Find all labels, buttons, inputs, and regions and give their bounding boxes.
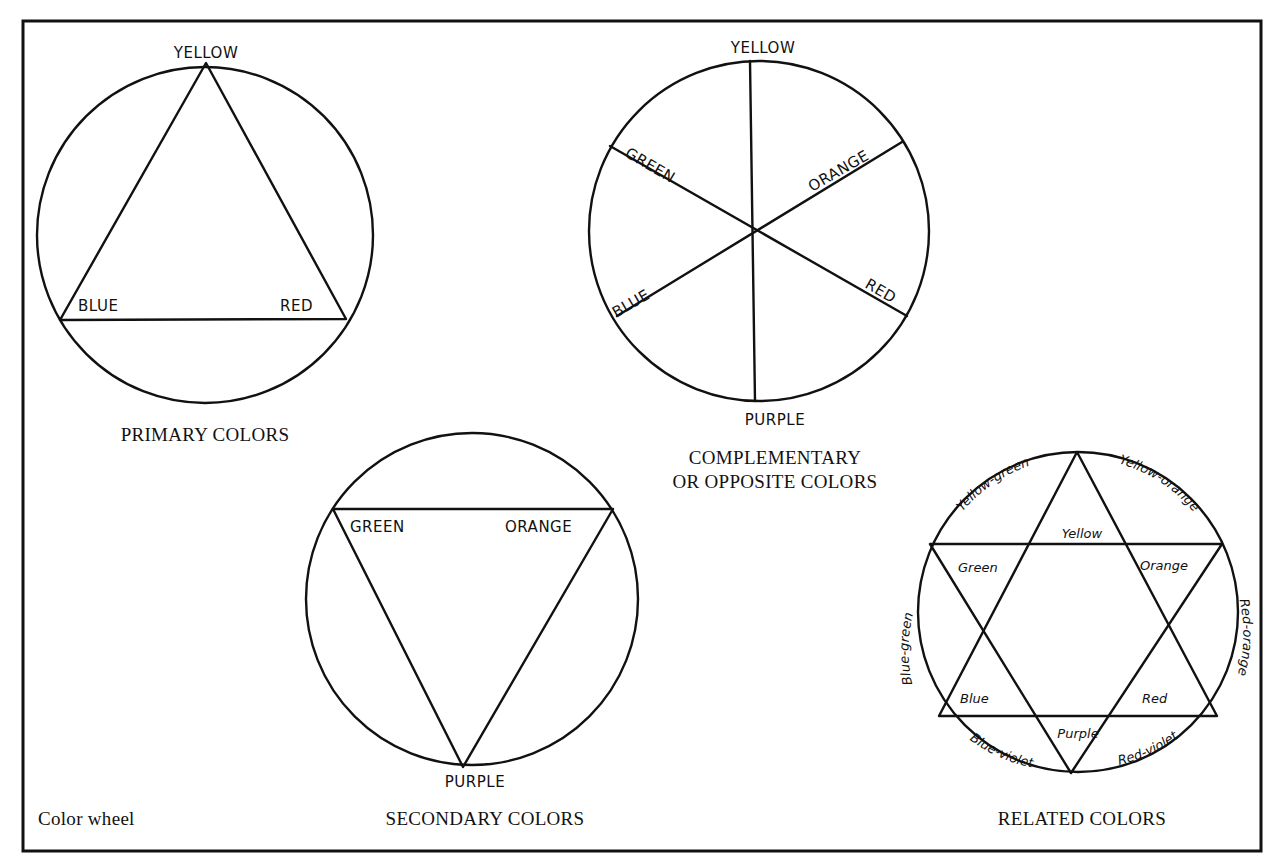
label-green: GREEN bbox=[622, 144, 678, 187]
caption-primary: PRIMARY COLORS bbox=[121, 424, 290, 445]
secondary-colors-wheel: GREEN ORANGE PURPLE SECONDARY COLORS bbox=[306, 433, 638, 829]
label-yellow: YELLOW bbox=[730, 39, 795, 57]
primary-colors-wheel: YELLOW BLUE RED PRIMARY COLORS bbox=[37, 44, 373, 445]
complementary-colors-wheel: YELLOW GREEN ORANGE BLUE RED PURPLE COMP… bbox=[589, 39, 929, 492]
caption-complementary-2: OR OPPOSITE COLORS bbox=[673, 471, 878, 492]
label-purple: Purple bbox=[1057, 726, 1098, 741]
label-green: GREEN bbox=[350, 518, 405, 536]
label-blue: Blue bbox=[960, 691, 989, 706]
color-wheel-figure: YELLOW BLUE RED PRIMARY COLORS YELLOW GR… bbox=[0, 0, 1268, 864]
label-red: RED bbox=[280, 297, 313, 315]
label-yellow-orange: Yellow-orange bbox=[1118, 452, 1203, 514]
secondary-circle bbox=[306, 433, 638, 765]
label-blue: BLUE bbox=[78, 297, 118, 315]
related-colors-wheel: Yellow Green Orange Blue Red Purple Yell… bbox=[896, 452, 1255, 829]
label-yellow-green: Yellow-green bbox=[953, 454, 1031, 513]
label-red: Red bbox=[1142, 691, 1168, 706]
label-orange: Orange bbox=[1140, 558, 1188, 573]
label-red-violet: Red-violet bbox=[1116, 727, 1181, 767]
label-blue-violet: Blue-violet bbox=[967, 730, 1035, 771]
label-orange: ORANGE bbox=[805, 146, 872, 195]
caption-secondary: SECONDARY COLORS bbox=[386, 808, 585, 829]
primary-circle bbox=[37, 67, 373, 403]
label-purple: PURPLE bbox=[745, 411, 805, 429]
caption-related: RELATED COLORS bbox=[998, 808, 1166, 829]
label-blue-green: Blue-green bbox=[896, 611, 916, 687]
label-yellow: YELLOW bbox=[173, 44, 238, 62]
label-purple: PURPLE bbox=[445, 773, 505, 791]
secondary-triangle bbox=[333, 509, 613, 767]
label-blue: BLUE bbox=[609, 286, 653, 322]
label-orange: ORANGE bbox=[505, 518, 572, 536]
label-green: Green bbox=[958, 560, 998, 575]
caption-complementary-1: COMPLEMENTARY bbox=[689, 447, 861, 468]
label-yellow: Yellow bbox=[1062, 526, 1103, 541]
figure-title: Color wheel bbox=[38, 808, 135, 829]
